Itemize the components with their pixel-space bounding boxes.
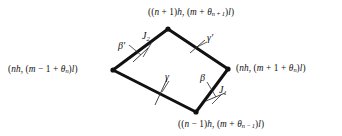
edge-annotation-gamma-prime-text: γ′ (207, 32, 213, 43)
edge-annotation-beta-text: β (200, 72, 205, 83)
vertex-label-right: (nh, (m + 1 + θn)l) (236, 64, 306, 74)
vertex-label-top: ((n + 1)h, (m + θn + 1)l) (148, 8, 234, 18)
vertex-label-left: (nh, (m − 1 + θn)l) (8, 65, 78, 75)
vertex-dot-bottom (193, 109, 198, 114)
vertex-label-bottom-text: ((n − 1)h, (m + θn − 1)l) (178, 119, 264, 129)
vertex-label-top-text: ((n + 1)h, (m + θn + 1)l) (148, 7, 234, 17)
edge-annotation-j2-subscript: 2 (146, 35, 149, 42)
vertex-label-left-text: (nh, (m − 1 + θn)l) (8, 64, 78, 74)
edge-annotation-beta-prime-text: β′ (118, 40, 125, 51)
vertex-dot-right (225, 66, 230, 71)
vertex-label-right-text: (nh, (m + 1 + θn)l) (236, 63, 306, 73)
edge-bottom-left (113, 70, 196, 112)
edge-annotation-gamma: γ (165, 72, 169, 82)
edge-top-right (168, 29, 228, 69)
edge-annotation-j2: J2 (142, 31, 150, 42)
edge-annotation-beta-prime: β′ (118, 41, 125, 51)
edge-annotation-beta: β (200, 73, 205, 83)
vertex-dot-top (165, 26, 170, 31)
edge-annotation-j1-subscript: 1 (223, 89, 226, 96)
edge-annotation-gamma-text: γ (165, 71, 169, 82)
edge-annotation-gamma-prime: γ′ (207, 33, 213, 43)
edge-annotation-j1: J1 (219, 85, 227, 96)
vertex-dot-left (110, 67, 115, 72)
vertex-label-bottom: ((n − 1)h, (m + θn − 1)l) (178, 120, 264, 130)
